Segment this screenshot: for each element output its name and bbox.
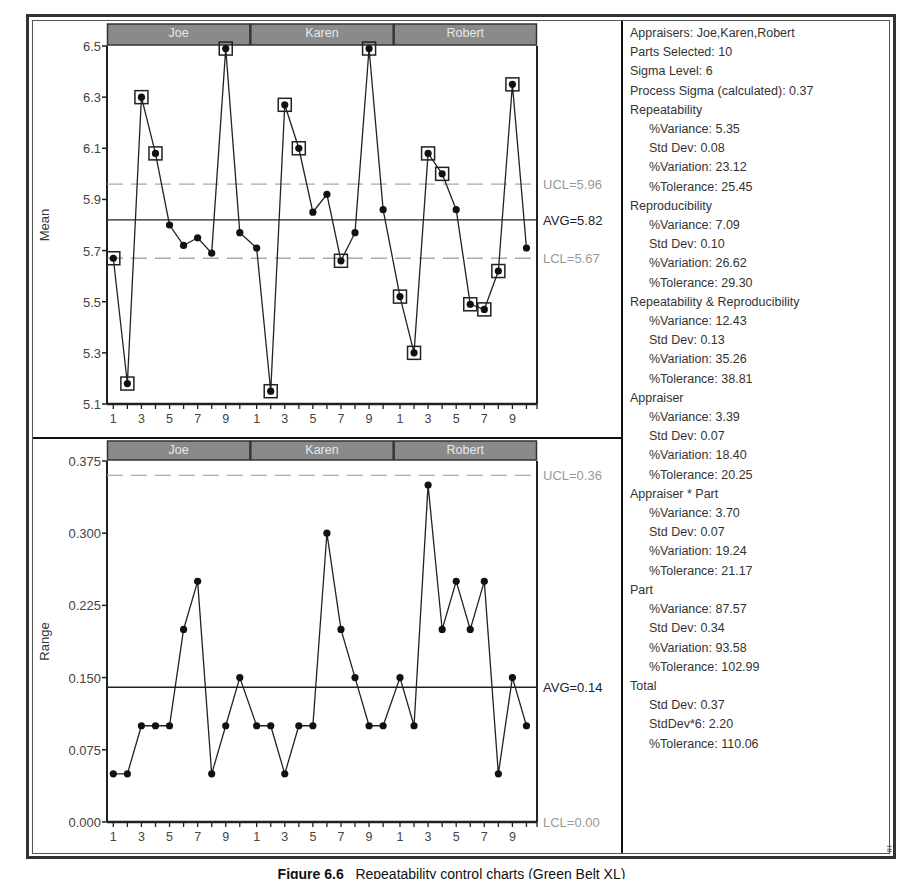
- stat-section-title: Reproducibility: [630, 197, 890, 216]
- stat-value: Std Dev: 0.34: [630, 619, 890, 638]
- stat-value: %Variation: 18.40: [630, 446, 890, 465]
- stat-value: Std Dev: 0.07: [630, 523, 890, 542]
- x-tick-label: 7: [337, 830, 344, 844]
- data-point: [523, 722, 530, 729]
- data-point: [124, 770, 131, 777]
- stat-value: %Variation: 35.26: [630, 350, 890, 369]
- stat-section-title: Repeatability & Reproducibility: [630, 293, 890, 312]
- data-point: [281, 770, 288, 777]
- appraiser-header-label: Robert: [447, 443, 485, 457]
- stat-value: Std Dev: 0.37: [630, 696, 890, 715]
- data-point: [309, 722, 316, 729]
- x-tick-label: 9: [222, 830, 229, 844]
- stat-value: %Tolerance: 110.06: [630, 735, 890, 754]
- stat-value: %Variance: 7.09: [630, 216, 890, 235]
- stat-value: %Variation: 26.62: [630, 254, 890, 273]
- stat-value: Std Dev: 0.13: [630, 331, 890, 350]
- stat-value: %Tolerance: 25.45: [630, 178, 890, 197]
- caption-label: Figure 6.6: [278, 866, 344, 879]
- y-tick-label: 0.225: [68, 598, 101, 613]
- stat-value: %Tolerance: 29.30: [630, 274, 890, 293]
- x-tick-label: 3: [138, 830, 145, 844]
- y-tick-label: 0.375: [68, 454, 101, 469]
- ucl-label: UCL=0.36: [543, 468, 602, 483]
- x-tick-label: 5: [166, 830, 173, 844]
- data-line: [113, 485, 526, 774]
- data-point: [110, 770, 117, 777]
- stat-value: Std Dev: 0.08: [630, 139, 890, 158]
- data-point: [424, 481, 431, 488]
- stat-value: %Tolerance: 20.25: [630, 466, 890, 485]
- y-tick-label: 0.300: [68, 526, 101, 541]
- x-tick-label: 1: [397, 830, 404, 844]
- x-tick-label: 7: [194, 830, 201, 844]
- stat-value: %Variance: 87.57: [630, 600, 890, 619]
- data-point: [138, 722, 145, 729]
- data-point: [194, 578, 201, 585]
- stat-value: %Variation: 23.12: [630, 158, 890, 177]
- stat-value: %Variance: 3.39: [630, 408, 890, 427]
- data-point: [166, 722, 173, 729]
- data-point: [152, 722, 159, 729]
- stat-section-title: Part: [630, 581, 890, 600]
- x-tick-label: 7: [481, 830, 488, 844]
- y-tick-label: 0.075: [68, 743, 101, 758]
- stat-sections: Repeatability%Variance: 5.35Std Dev: 0.0…: [630, 101, 890, 754]
- stat-value: %Variance: 12.43: [630, 312, 890, 331]
- stat-value: Std Dev: 0.10: [630, 235, 890, 254]
- stat-section-title: Appraiser: [630, 389, 890, 408]
- x-tick-label: 1: [110, 830, 117, 844]
- parts-selected-label: Parts Selected: 10: [630, 43, 890, 62]
- data-point: [208, 770, 215, 777]
- lcl-label: LCL=0.00: [543, 815, 600, 830]
- figure-caption: Figure 6.6 Repeatability control charts …: [0, 866, 903, 879]
- stat-section-title: Total: [630, 677, 890, 696]
- data-point: [365, 722, 372, 729]
- caption-text: Repeatability control charts (Green Belt…: [355, 866, 625, 879]
- stat-value: %Tolerance: 38.81: [630, 370, 890, 389]
- y-tick-label: 0.000: [68, 815, 101, 830]
- statistics-panel: Appraisers: Joe,Karen,Robert Parts Selec…: [630, 24, 890, 850]
- stat-value: %Tolerance: 102.99: [630, 658, 890, 677]
- data-point: [337, 626, 344, 633]
- stat-section-title: Repeatability: [630, 101, 890, 120]
- stat-section-title: Appraiser * Part: [630, 485, 890, 504]
- data-point: [396, 674, 403, 681]
- data-point: [295, 722, 302, 729]
- stat-value: %Variation: 93.58: [630, 639, 890, 658]
- process-sigma-label: Process Sigma (calculated): 0.37: [630, 82, 890, 101]
- y-axis-label: Range: [37, 622, 52, 660]
- y-tick-label: 0.150: [68, 671, 101, 686]
- sigma-level-label: Sigma Level: 6: [630, 62, 890, 81]
- data-point: [222, 722, 229, 729]
- data-point: [439, 626, 446, 633]
- stat-value: %Variation: 19.24: [630, 542, 890, 561]
- data-point: [509, 674, 516, 681]
- data-point: [323, 530, 330, 537]
- stat-value: %Variance: 3.70: [630, 504, 890, 523]
- range-chart: JoeKarenRobert0.3750.3000.2250.1500.0750…: [0, 0, 630, 870]
- appraiser-header-label: Karen: [305, 443, 338, 457]
- data-point: [453, 578, 460, 585]
- stat-value: %Tolerance: 21.17: [630, 562, 890, 581]
- x-tick-label: 5: [309, 830, 316, 844]
- x-tick-label: 3: [425, 830, 432, 844]
- data-point: [253, 722, 260, 729]
- appraisers-label: Appraisers: Joe,Karen,Robert: [630, 24, 890, 43]
- stat-value: Std Dev: 0.07: [630, 427, 890, 446]
- data-point: [267, 722, 274, 729]
- data-point: [380, 722, 387, 729]
- data-point: [410, 722, 417, 729]
- data-point: [481, 578, 488, 585]
- stat-value: %Variance: 5.35: [630, 120, 890, 139]
- x-tick-label: 5: [453, 830, 460, 844]
- data-point: [351, 674, 358, 681]
- data-point: [495, 770, 502, 777]
- avg-label: AVG=0.14: [543, 680, 602, 695]
- data-point: [236, 674, 243, 681]
- x-tick-label: 9: [509, 830, 516, 844]
- data-point: [180, 626, 187, 633]
- data-point: [467, 626, 474, 633]
- resize-grip-icon[interactable]: ⠿: [886, 845, 893, 855]
- x-tick-label: 3: [281, 830, 288, 844]
